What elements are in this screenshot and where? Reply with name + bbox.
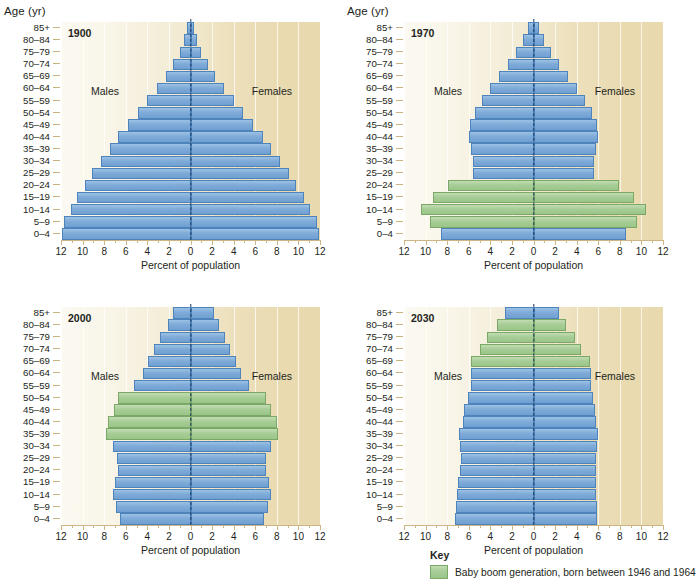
x-axis-tick (191, 240, 192, 245)
bar-female-50_54 (191, 107, 244, 118)
bar-male-5_9 (430, 216, 534, 227)
bar-male-15_19 (77, 192, 190, 203)
x-axis-minor-tick (458, 525, 459, 528)
males-label: Males (91, 85, 119, 97)
bar-male-50_54 (468, 392, 534, 403)
x-axis-tick (577, 240, 578, 245)
key-entry-baby-boom: Baby boom generation, born between 1946 … (430, 565, 685, 579)
bar-male-30_34 (113, 441, 191, 452)
bar-female-40_44 (534, 131, 599, 142)
bar-male-45_49 (114, 404, 191, 415)
age-axis-title: Age (yr) (347, 5, 389, 17)
bar-female-35_39 (191, 143, 272, 154)
x-axis-tick-label: 12 (398, 531, 409, 542)
x-axis-minor-tick (458, 240, 459, 243)
x-axis-minor-tick (609, 525, 610, 528)
x-axis-minor-tick (566, 240, 567, 243)
x-axis-minor-tick (544, 525, 545, 528)
x-axis-minor-tick (415, 525, 416, 528)
x-axis-tick-label: 2 (552, 246, 558, 257)
baby-boom-swatch-icon (430, 565, 448, 579)
bar-male-35_39 (110, 143, 191, 154)
x-axis-tick (126, 240, 127, 245)
x-axis-minor-tick (244, 525, 245, 528)
y-axis-tick-label: 70–74 (366, 58, 404, 69)
x-axis-tick (663, 240, 664, 245)
bar-female-60_64 (191, 368, 242, 379)
y-axis-tick-label: 80–84 (23, 34, 61, 45)
males-label: Males (434, 85, 462, 97)
y-axis-tick-label: 15–19 (366, 476, 404, 487)
x-axis-minor-tick (631, 240, 632, 243)
bar-male-35_39 (471, 143, 534, 154)
bar-female-65_69 (191, 356, 236, 367)
bar-female-30_34 (191, 441, 272, 452)
y-axis-tick-label: 20–24 (366, 179, 404, 190)
bar-male-60_64 (143, 368, 190, 379)
x-axis-minor-tick (93, 525, 94, 528)
bar-male-5_9 (116, 501, 190, 512)
x-axis-tick (169, 525, 170, 530)
bar-female-75_79 (534, 332, 575, 343)
center-axis-line (533, 19, 534, 240)
y-axis-tick-label: 10–14 (366, 488, 404, 499)
bar-male-50_54 (475, 107, 533, 118)
x-axis-tick (447, 240, 448, 245)
plot-area-2030: 2030 Males Females (404, 307, 663, 525)
x-axis-tick (577, 525, 578, 530)
x-axis-tick-label: 12 (55, 246, 66, 257)
x-axis-minor-tick (266, 240, 267, 243)
bar-male-55_59 (471, 380, 534, 391)
x-axis-minor-tick (309, 240, 310, 243)
bar-female-5_9 (191, 216, 317, 227)
bar-female-15_19 (534, 477, 597, 488)
x-axis-tick-label: 6 (123, 531, 129, 542)
age-axis-title: Age (yr) (4, 5, 46, 17)
x-axis-tick (83, 240, 84, 245)
y-axis-tick-label: 50–54 (366, 392, 404, 403)
y-axis-tick-label: 80–84 (23, 319, 61, 330)
x-axis-tick-label: 4 (231, 246, 237, 257)
x-axis-minor-tick (266, 525, 267, 528)
bar-male-50_54 (138, 107, 191, 118)
y-axis-tick-label: 50–54 (23, 392, 61, 403)
bar-male-80_84 (497, 319, 534, 330)
x-axis-tick-label: 2 (209, 531, 215, 542)
x-axis-tick (490, 525, 491, 530)
x-axis-tick (555, 525, 556, 530)
x-axis-tick (61, 240, 62, 245)
bar-male-35_39 (106, 428, 190, 439)
bar-male-25_29 (461, 453, 533, 464)
bar-female-20_24 (191, 180, 297, 191)
bar-male-30_34 (101, 156, 191, 167)
y-axis-tick-label: 25–29 (23, 167, 61, 178)
bar-male-0_4 (455, 513, 534, 524)
x-axis-tick-label: 2 (509, 531, 515, 542)
x-axis-minor-tick (436, 240, 437, 243)
bar-female-60_64 (534, 83, 577, 94)
y-axis-tick-label: 10–14 (23, 488, 61, 499)
x-axis-tick (126, 525, 127, 530)
bar-female-20_24 (191, 465, 267, 476)
bar-male-10_14 (71, 204, 191, 215)
bar-female-80_84 (191, 319, 219, 330)
x-axis-minor-tick (223, 240, 224, 243)
bar-female-5_9 (534, 216, 638, 227)
y-axis-tick-label: 5–9 (34, 216, 61, 227)
x-axis-tick (663, 525, 664, 530)
y-axis-tick-label: 30–34 (366, 155, 404, 166)
bar-female-0_4 (191, 228, 319, 239)
bar-male-0_4 (120, 513, 190, 524)
bar-male-10_14 (113, 489, 191, 500)
x-axis-tick (320, 240, 321, 245)
females-label: Females (252, 85, 292, 97)
females-label: Females (595, 370, 635, 382)
x-axis-minor-tick (115, 525, 116, 528)
x-axis-minor-tick (309, 525, 310, 528)
bar-female-35_39 (191, 428, 278, 439)
x-axis-tick (620, 240, 621, 245)
x-axis-tick-label: 12 (314, 531, 325, 542)
x-axis-minor-tick (72, 240, 73, 243)
x-axis-tick (512, 240, 513, 245)
bar-female-85+ (534, 22, 539, 33)
